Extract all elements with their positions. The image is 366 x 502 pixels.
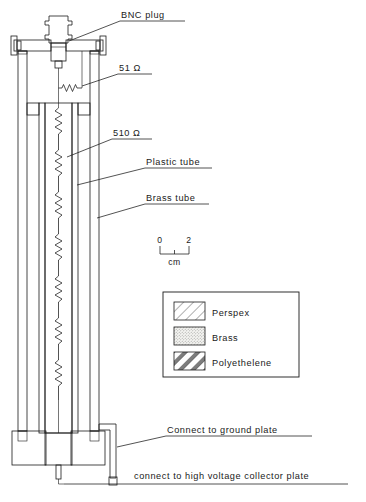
scale-bar-unit-label: cm: [168, 257, 180, 267]
scale-bar-start-label: 0: [157, 235, 162, 245]
callout-ground-plate-label: Connect to ground plate: [167, 425, 278, 435]
callout-plastic-tube-label: Plastic tube: [146, 157, 200, 167]
callout-brass-tube-label: Brass tube: [146, 193, 195, 203]
callout-51-ohm-label: 51 Ω: [119, 63, 141, 73]
legend-swatch-polyethelene: [174, 352, 205, 370]
legend-label-perspex: Perspex: [212, 308, 250, 318]
legend-label-polyethelene: Polyethelene: [212, 358, 272, 368]
callout-bnc-plug-label: BNC plug: [121, 10, 165, 20]
legend-swatch-perspex: [174, 302, 205, 320]
callout-collector-plate-label: connect to high voltage collector plate: [134, 471, 309, 481]
diagram-canvas: BNC plug 51 Ω 510 Ω Plastic tube Brass t…: [0, 0, 366, 502]
callout-510-ohm-label: 510 Ω: [113, 128, 141, 138]
legend: Perspex Brass Polyethelene: [163, 292, 299, 377]
legend-label-brass: Brass: [212, 333, 238, 343]
callout-collector-plate: connect to high voltage collector plate: [134, 471, 309, 481]
technical-diagram-figure: BNC plug 51 Ω 510 Ω Plastic tube Brass t…: [0, 0, 366, 502]
legend-swatch-brass: [174, 327, 205, 345]
scale-bar-end-label: 2: [186, 235, 191, 245]
